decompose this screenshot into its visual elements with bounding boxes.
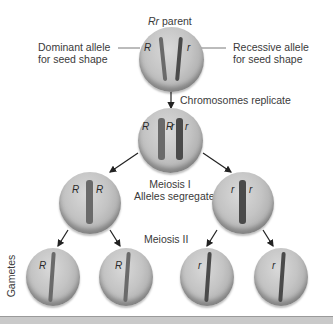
dominant-allele-callout: Dominant allele for seed shape (38, 41, 110, 65)
allele-label-R-left: R (142, 121, 149, 132)
replicated-cell: R R r r (138, 108, 203, 173)
gamete-r-1: r (180, 248, 234, 306)
callout-line-2: for seed shape (233, 53, 309, 65)
allele-label-r-right: r (249, 184, 252, 195)
callout-line-1: Dominant allele (38, 41, 110, 53)
meiosis-1-cell-R: R R (59, 172, 121, 234)
callout-line-2: for seed shape (38, 53, 110, 65)
gamete-R-2: R (99, 248, 153, 306)
gamete-r-2: r (254, 248, 308, 306)
allele-label-R: R (115, 260, 122, 271)
meiosis-1-title: Meiosis I (134, 178, 206, 190)
allele-label-R: R (39, 260, 46, 271)
callout-line-1: Recessive allele (233, 41, 309, 53)
replicate-label: Chromosomes replicate (180, 94, 291, 106)
allele-label-r: r (198, 260, 201, 271)
allele-label-r: r (187, 42, 190, 53)
chromatid-r (204, 252, 211, 302)
chromatid-R (48, 252, 55, 302)
replicated-chromosome-dominant (158, 118, 165, 160)
meiosis-1-subtitle: Alleles segregate (134, 190, 206, 202)
gamete-R-1: R (26, 248, 80, 306)
bottom-bar (0, 316, 333, 324)
allele-label-R-right: R (96, 184, 103, 195)
chromatid-R (123, 252, 130, 302)
allele-label-r-left: r (171, 121, 174, 132)
chromosome-RR (86, 180, 93, 224)
meiosis-2-label: Meiosis II (144, 233, 188, 245)
allele-label-r-right: r (185, 121, 188, 132)
allele-label-r-left: r (231, 184, 234, 195)
meiosis-1-label: Meiosis I Alleles segregate (134, 178, 206, 202)
recessive-allele-callout: Recessive allele for seed shape (233, 41, 309, 65)
allele-label-R: R (144, 42, 151, 53)
chromosome-rr (239, 180, 246, 224)
parent-label: Rr parent (148, 15, 192, 27)
meiosis-1-cell-r: r r (212, 172, 274, 234)
allele-label-r: r (272, 260, 275, 271)
replicated-chromosome-recessive (176, 118, 183, 160)
parent-cell: R r (139, 27, 204, 92)
chromatid-r (278, 252, 285, 302)
parent-text: parent (159, 15, 192, 27)
parent-genotype: Rr (148, 15, 159, 27)
chromosome-recessive (175, 37, 183, 81)
chromosome-dominant (159, 37, 168, 81)
gametes-label: Gametes (5, 255, 17, 298)
allele-label-R-left: R (72, 184, 79, 195)
